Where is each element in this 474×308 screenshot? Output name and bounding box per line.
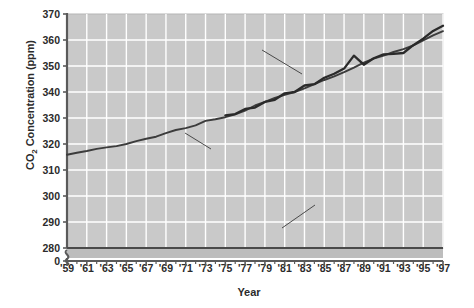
plot-canvas	[0, 0, 474, 308]
plot-background	[67, 14, 443, 248]
plot-background-break	[67, 248, 443, 258]
co2-concentration-chart: CO2 Concentration (ppm) 3703603503403303…	[0, 0, 474, 308]
